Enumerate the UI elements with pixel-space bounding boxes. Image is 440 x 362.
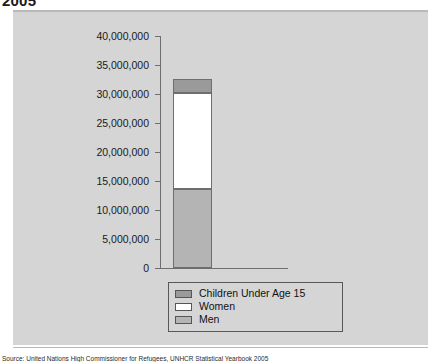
legend-swatch-children-icon <box>175 290 192 298</box>
y-axis-tick-label: 10,000,000 <box>96 205 149 216</box>
y-axis-line <box>160 36 161 269</box>
x-axis-line <box>160 268 288 269</box>
y-axis-tick-label: 5,000,000 <box>102 234 149 245</box>
y-axis-tick-label: 40,000,000 <box>96 31 149 42</box>
bar-segment-men[interactable] <box>173 189 212 268</box>
bar-segment-women[interactable] <box>173 93 212 189</box>
y-axis-tick <box>155 210 160 211</box>
legend-swatch-men-icon <box>175 316 192 324</box>
source-caption: Source: United Nations High Commissioner… <box>2 355 268 362</box>
y-axis-tick-label: 30,000,000 <box>96 89 149 100</box>
y-axis-tick <box>155 239 160 240</box>
legend-item-children[interactable]: Children Under Age 15 <box>175 287 336 300</box>
legend-item-men[interactable]: Men <box>175 313 336 326</box>
caption-divider <box>13 347 428 348</box>
chart-panel: 40,000,00035,000,00030,000,00025,000,000… <box>13 12 428 345</box>
y-axis-tick <box>155 65 160 66</box>
y-axis-tick <box>155 268 160 269</box>
legend-item-women[interactable]: Women <box>175 300 336 313</box>
page-title: 2005 <box>2 0 36 9</box>
chart-legend: Children Under Age 15 Women Men <box>168 282 343 332</box>
legend-label-men: Men <box>199 314 219 325</box>
y-axis-tick-label: 15,000,000 <box>96 176 149 187</box>
y-axis-tick-label: 0 <box>143 263 149 274</box>
y-axis-tick <box>155 94 160 95</box>
legend-swatch-women-icon <box>175 303 192 311</box>
y-axis-tick <box>155 181 160 182</box>
y-axis-tick <box>155 152 160 153</box>
y-axis-tick <box>155 36 160 37</box>
legend-label-women: Women <box>199 301 235 312</box>
legend-label-children: Children Under Age 15 <box>199 288 305 299</box>
y-axis-tick-label: 35,000,000 <box>96 60 149 71</box>
bar-segment-children[interactable] <box>173 79 212 93</box>
y-axis-tick-label: 25,000,000 <box>96 118 149 129</box>
y-axis-tick-label: 20,000,000 <box>96 147 149 158</box>
source-caption-clip: Source: United Nations High Commissioner… <box>0 355 440 362</box>
page-heading-clip: 2005 <box>0 0 440 9</box>
y-axis-tick <box>155 123 160 124</box>
